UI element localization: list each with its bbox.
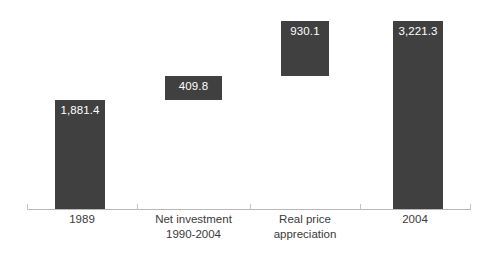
plot-area: 1,881.4 409.8 930.1 3,221.3 [0, 0, 498, 209]
x-axis-label-line1: Net investment [155, 213, 232, 225]
bar-value-label-1989: 1,881.4 [55, 104, 105, 117]
bar-value-label-2004: 3,221.3 [393, 25, 443, 38]
waterfall-chart: 1,881.4 409.8 930.1 3,221.3 1989 Net inv… [0, 0, 498, 253]
x-axis-tick [250, 204, 251, 210]
bar-real-price-appreciation: 930.1 [281, 21, 329, 76]
x-axis-label-net-investment: Net investment 1990-2004 [137, 212, 250, 242]
x-axis-label-line1: 1989 [69, 213, 95, 225]
x-axis-label-real-price-appreciation: Real price appreciation [250, 212, 360, 242]
x-axis-label-2004: 2004 [360, 212, 470, 227]
x-axis-label-line1: Real price [279, 213, 331, 225]
x-axis-label-line1: 2004 [402, 213, 428, 225]
x-axis-line [27, 209, 470, 210]
x-axis-tick [137, 204, 138, 210]
x-axis-tick [27, 204, 28, 210]
x-axis-tick [360, 204, 361, 210]
x-axis-label-line2: appreciation [250, 227, 360, 242]
x-axis-label-1989: 1989 [27, 212, 137, 227]
bar-1989: 1,881.4 [55, 100, 105, 209]
x-axis-tick [470, 204, 471, 210]
x-axis-label-line2: 1990-2004 [137, 227, 250, 242]
x-axis-labels: 1989 Net investment 1990-2004 Real price… [0, 212, 498, 253]
bar-value-label-net-investment: 409.8 [165, 80, 222, 93]
bar-2004: 3,221.3 [393, 21, 443, 209]
bar-value-label-real-price-appreciation: 930.1 [281, 25, 329, 38]
bar-net-investment: 409.8 [165, 76, 222, 100]
